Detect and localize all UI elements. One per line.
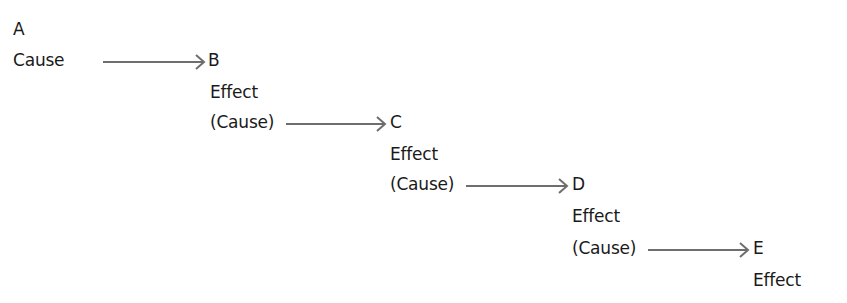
arrow-right-icon (648, 242, 751, 258)
arrow-a-to-b (103, 54, 207, 70)
node-c-effect-label: Effect (390, 144, 438, 164)
arrow-c-to-d (466, 178, 570, 194)
node-e-letter: E (753, 238, 764, 258)
node-a-letter: A (13, 19, 24, 39)
arrow-right-icon (103, 54, 207, 70)
arrow-d-to-e (648, 242, 751, 258)
arrow-right-icon (286, 116, 388, 132)
node-a-cause-label: Cause (13, 50, 64, 70)
node-e-effect-label: Effect (753, 270, 801, 290)
node-b-cause-label: (Cause) (210, 112, 274, 132)
node-d-letter: D (572, 174, 585, 194)
node-c-cause-label: (Cause) (390, 174, 454, 194)
node-c-letter: C (390, 112, 402, 132)
node-d-cause-label: (Cause) (572, 238, 636, 258)
node-b-letter: B (208, 50, 219, 70)
node-d-effect-label: Effect (572, 206, 620, 226)
node-b-effect-label: Effect (210, 82, 258, 102)
arrow-right-icon (466, 178, 570, 194)
arrow-b-to-c (286, 116, 388, 132)
